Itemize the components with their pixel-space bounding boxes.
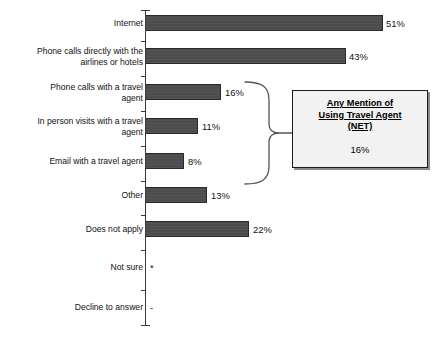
category-label: Phone calls directly with the airlines o…	[0, 46, 143, 67]
bar-value-label: 51%	[386, 18, 405, 29]
bar-row: Other 13%	[0, 178, 438, 212]
bar-row: Does not apply 22%	[0, 212, 438, 246]
category-label: Not sure	[0, 262, 143, 273]
bar-value-label: 11%	[202, 121, 220, 132]
bar-row: Decline to answer -	[0, 290, 438, 324]
bar-value-label: 22%	[253, 224, 272, 235]
category-label: Decline to answer	[0, 302, 143, 313]
net-callout-value: 16%	[293, 144, 427, 155]
category-label: Phone calls with a travel agent	[0, 82, 143, 103]
bar	[146, 15, 383, 31]
bar-texture	[146, 119, 197, 133]
bar-texture	[146, 49, 345, 63]
bar-value-label: *	[150, 262, 154, 273]
category-label: Internet	[0, 18, 143, 29]
bar-texture	[146, 85, 220, 99]
bar-texture	[146, 154, 183, 168]
bar-texture	[146, 16, 382, 30]
bar	[146, 153, 184, 169]
bar-value-label: 16%	[225, 87, 244, 98]
net-callout-title: Any Mention of Using Travel Agent (NET)	[293, 98, 427, 133]
bar	[146, 84, 221, 100]
bar-row: Internet 51%	[0, 6, 438, 40]
y-axis-bottom-cap	[145, 325, 150, 326]
category-label: Email with a travel agent	[0, 156, 143, 167]
bar-value-label: -	[150, 302, 153, 313]
bar-texture	[146, 222, 248, 236]
category-label: Other	[0, 190, 143, 201]
bar-value-label: 13%	[211, 190, 230, 201]
bar	[146, 221, 249, 237]
bar-row: Not sure *	[0, 250, 438, 284]
axis-tick	[141, 325, 145, 326]
bar	[146, 187, 207, 203]
net-callout-box: Any Mention of Using Travel Agent (NET) …	[292, 90, 428, 168]
horizontal-bar-chart: Internet 51% Phone calls directly with t…	[0, 0, 438, 343]
bar-row: Phone calls directly with the airlines o…	[0, 39, 438, 73]
bar	[146, 48, 346, 64]
bar	[146, 118, 198, 134]
bar-value-label: 8%	[188, 156, 202, 167]
category-label: Does not apply	[0, 224, 143, 235]
category-label: In person visits with a travel agent	[0, 116, 143, 137]
bar-value-label: 43%	[349, 51, 368, 62]
bar-texture	[146, 188, 206, 202]
